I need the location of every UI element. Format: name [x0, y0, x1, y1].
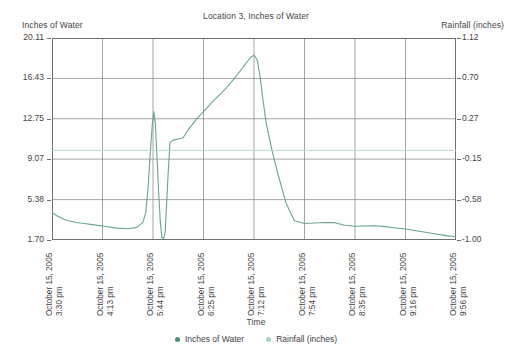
y-axis-right-tick-mark: [457, 159, 461, 160]
y-axis-right-tick-label: 0.70: [462, 72, 510, 82]
y-axis-left-tick-mark: [47, 38, 51, 39]
x-axis-tick-label: October 15, 20053:30 pm: [45, 244, 66, 316]
x-tick-time: 6:25 pm: [207, 244, 217, 316]
plot-area: [52, 38, 456, 240]
y-axis-right-title: Rainfall (inches): [441, 20, 504, 30]
legend-item[interactable]: Inches of Water: [175, 334, 244, 344]
x-tick-time: 7:12 pm: [257, 244, 267, 316]
x-tick-date: October 15, 2005: [45, 244, 55, 316]
y-axis-left-tick-mark: [47, 240, 51, 241]
y-axis-left-tick-mark: [47, 159, 51, 160]
y-axis-right-tick-label: 0.27: [462, 113, 510, 123]
y-axis-right-tick-mark: [457, 38, 461, 39]
legend-label: Inches of Water: [185, 334, 244, 344]
x-axis-tick-label: October 15, 20055:44 pm: [146, 244, 167, 316]
y-axis-right-tick-mark: [457, 78, 461, 79]
x-tick-time: 3:30 pm: [55, 244, 65, 316]
legend-marker-icon: [266, 337, 271, 342]
x-tick-date: October 15, 2005: [197, 244, 207, 316]
x-axis-tick-label: October 15, 20058:35 pm: [348, 244, 369, 316]
y-axis-left-tick-mark: [47, 119, 51, 120]
y-axis-right-tick-mark: [457, 200, 461, 201]
y-axis-left-tick-label: 5.38: [2, 194, 44, 204]
x-tick-date: October 15, 2005: [146, 244, 156, 316]
x-tick-date: October 15, 2005: [247, 244, 257, 316]
x-tick-time: 9:56 pm: [459, 244, 469, 316]
y-axis-right-tick-mark: [457, 119, 461, 120]
x-axis-title: Time: [0, 317, 512, 327]
x-tick-time: 9:16 pm: [409, 244, 419, 316]
legend-marker-icon: [175, 337, 180, 342]
legend-item[interactable]: Rainfall (inches): [266, 334, 337, 344]
x-axis-tick-label: October 15, 20059:56 pm: [449, 244, 470, 316]
x-tick-time: 7:54 pm: [308, 244, 318, 316]
y-axis-left-title: Inches of Water: [22, 20, 83, 30]
y-axis-right-tick-label: -1.00: [462, 234, 510, 244]
x-tick-date: October 15, 2005: [96, 244, 106, 316]
y-axis-right-tick-label: -0.15: [462, 153, 510, 163]
x-axis-tick-label: October 15, 20059:16 pm: [399, 244, 420, 316]
x-axis-tick-label: October 15, 20057:54 pm: [298, 244, 319, 316]
y-axis-left-tick-label: 12.75: [2, 113, 44, 123]
y-axis-right-tick-mark: [457, 240, 461, 241]
x-axis-tick-label: October 15, 20054:13 pm: [96, 244, 117, 316]
x-tick-date: October 15, 2005: [399, 244, 409, 316]
y-axis-left-tick-label: 9.07: [2, 153, 44, 163]
chart-legend: Inches of WaterRainfall (inches): [0, 334, 512, 344]
x-tick-time: 5:44 pm: [156, 244, 166, 316]
legend-label: Rainfall (inches): [276, 334, 337, 344]
y-axis-left-tick-mark: [47, 78, 51, 79]
y-axis-left-tick-label: 20.11: [2, 32, 44, 42]
x-tick-date: October 15, 2005: [449, 244, 459, 316]
x-tick-time: 8:35 pm: [358, 244, 368, 316]
x-tick-date: October 15, 2005: [348, 244, 358, 316]
x-tick-time: 4:13 pm: [106, 244, 116, 316]
y-axis-left-tick-label: 16.43: [2, 72, 44, 82]
y-axis-left-tick-mark: [47, 200, 51, 201]
x-axis-tick-label: October 15, 20057:12 pm: [247, 244, 268, 316]
y-axis-right-tick-label: 1.12: [462, 32, 510, 42]
x-axis-tick-label: October 15, 20056:25 pm: [197, 244, 218, 316]
chart-container: Location 3, Inches of Water Inches of Wa…: [0, 0, 512, 363]
y-axis-left-tick-label: 1.70: [2, 234, 44, 244]
y-axis-right-tick-label: -0.58: [462, 194, 510, 204]
x-tick-date: October 15, 2005: [298, 244, 308, 316]
plot-svg: [52, 38, 456, 240]
